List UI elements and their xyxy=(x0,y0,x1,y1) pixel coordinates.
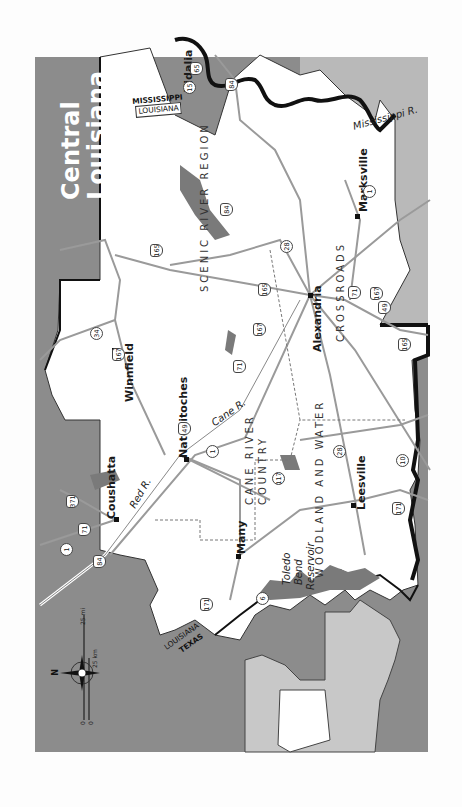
map-title: Central Louisiana xyxy=(58,71,110,200)
city-marker xyxy=(184,457,189,462)
region-cane-river: CANE RIVER xyxy=(245,414,255,505)
route-shield-15: 15 xyxy=(183,81,196,94)
route-shield-84c: 84 xyxy=(93,555,106,568)
compass-north-label: N xyxy=(51,669,60,676)
route-shield-34: 34 xyxy=(90,327,103,340)
route-shield-49b: 49 xyxy=(178,422,191,435)
city-natchitoches: Natchitoches xyxy=(178,377,189,458)
route-shield-84: 84 xyxy=(225,78,238,91)
region-crossroads: CROSSROADS xyxy=(336,242,346,342)
route-shield-167: 167 xyxy=(112,348,125,361)
route-shield-28b: 28 xyxy=(333,445,346,458)
city-alexandria: Alexandria xyxy=(312,285,323,352)
region-country: COUNTRY xyxy=(258,436,268,505)
route-shield-71c: 71 xyxy=(78,523,91,536)
city-marker xyxy=(114,517,119,522)
route-shield-71b: 71 xyxy=(348,286,361,299)
city-marker xyxy=(236,554,241,559)
city-many: Many xyxy=(236,521,247,554)
scale-label-zero-km: 0 xyxy=(88,721,94,725)
city-marker xyxy=(355,214,360,219)
scale-label-km: 25 km xyxy=(92,649,98,668)
route-shield-84b: 84 xyxy=(220,203,233,216)
label-bend: Bend xyxy=(294,559,304,585)
central-louisiana-map: Central Louisiana Vidalia Marksville Ale… xyxy=(0,0,462,807)
route-shield-1c: 1 xyxy=(60,543,73,556)
route-shield-171b: 171 xyxy=(200,598,213,611)
title-line-1: Central xyxy=(58,71,84,200)
city-winnfield: Winnfield xyxy=(124,343,135,402)
route-shield-171: 171 xyxy=(392,502,405,515)
region-woodland-water: WOODLAND AND WATER xyxy=(315,400,325,578)
city-marksville: Marksville xyxy=(358,148,369,212)
route-shield-167c: 167 xyxy=(370,287,383,300)
route-shield-1: 1 xyxy=(363,185,376,198)
route-shield-1b: 1 xyxy=(206,445,219,458)
route-shield-28: 28 xyxy=(280,240,293,253)
route-shield-65: 65 xyxy=(190,62,203,75)
scale-label-zero-mi: 0 xyxy=(80,721,86,725)
route-shield-167b: 167 xyxy=(253,323,266,336)
route-shield-165: 165 xyxy=(150,244,163,257)
route-shield-10: 10 xyxy=(396,454,409,467)
route-shield-165b: 165 xyxy=(258,283,271,296)
label-toledo: Toledo xyxy=(282,553,292,585)
city-marker xyxy=(308,293,313,298)
label-reservoir: Reservoir xyxy=(306,543,316,591)
route-shield-49: 49 xyxy=(378,301,391,314)
route-shield-165c: 165 xyxy=(398,338,411,351)
city-marker xyxy=(351,503,356,508)
route-shield-117: 117 xyxy=(272,472,285,485)
route-shield-71: 71 xyxy=(233,360,246,373)
region-scenic-river: SCENIC RIVER REGION xyxy=(200,122,210,292)
title-line-2: Louisiana xyxy=(84,71,110,200)
city-coushatta: Coushatta xyxy=(106,456,117,519)
city-leesville: Leesville xyxy=(356,456,367,510)
route-shield-6: 6 xyxy=(256,592,269,605)
route-shield-371: 371 xyxy=(66,495,79,508)
scale-label-miles: 25 mi xyxy=(80,608,86,625)
